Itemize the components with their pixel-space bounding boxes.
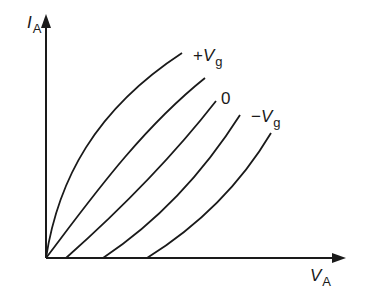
x-axis-arrow-icon <box>332 253 346 263</box>
curve-5 <box>147 133 271 258</box>
curve-label-negative-vg: −Vg <box>251 108 281 125</box>
y-axis-subscript: A <box>33 21 42 36</box>
x-axis-symbol: V <box>310 266 321 285</box>
characteristic-curves-plot <box>0 0 365 307</box>
y-axis-arrow-icon <box>41 14 51 28</box>
x-axis-subscript: A <box>322 274 331 289</box>
curve-1 <box>46 53 182 258</box>
vg-subscript: g <box>273 115 280 130</box>
curve-label-positive-vg: +Vg <box>193 47 223 64</box>
zero-label: 0 <box>221 89 230 108</box>
y-axis-symbol: I <box>27 13 32 32</box>
plus-sign: + <box>193 46 203 65</box>
curve-2 <box>46 78 205 258</box>
vg-symbol: V <box>261 107 272 126</box>
curve-4 <box>103 115 240 258</box>
x-axis-label: VA <box>310 267 331 284</box>
minus-sign: − <box>251 107 261 126</box>
curve-3 <box>66 101 216 258</box>
vg-symbol: V <box>203 46 214 65</box>
curve-label-zero: 0 <box>221 90 230 107</box>
vg-subscript: g <box>215 54 222 69</box>
y-axis-label: IA <box>27 14 41 31</box>
